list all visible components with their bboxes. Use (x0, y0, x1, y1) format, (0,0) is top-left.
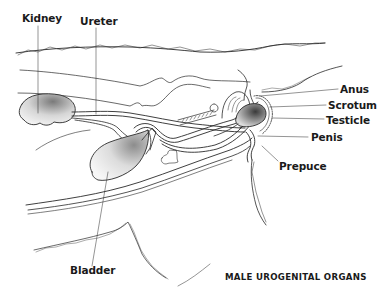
body-contour-upper (20, 70, 250, 86)
label-testicle: Testicle (326, 115, 370, 126)
urogenital-diagram: Kidney Ureter Anus Scrotum Testicle Peni… (0, 0, 384, 298)
label-penis: Penis (311, 132, 343, 143)
anatomy-line-art (0, 0, 384, 298)
anal-gland (210, 104, 218, 112)
label-prepuce: Prepuce (279, 161, 327, 172)
label-scrotum: Scrotum (328, 100, 377, 111)
testicle-shape (236, 104, 266, 127)
label-kidney: Kidney (22, 13, 62, 24)
ureter-duct (72, 111, 245, 128)
bladder-shape (90, 130, 148, 180)
back-outline (16, 43, 325, 55)
label-bladder: Bladder (70, 265, 115, 276)
prepuce-hair (251, 160, 266, 225)
urethra (160, 120, 248, 148)
label-ureter: Ureter (80, 16, 118, 27)
fat-tissue (161, 150, 178, 164)
kidney-shape (19, 94, 75, 125)
label-anus: Anus (340, 84, 369, 95)
leader-lines (38, 26, 338, 266)
diagram-caption: MALE UROGENITAL ORGANS (225, 273, 367, 282)
